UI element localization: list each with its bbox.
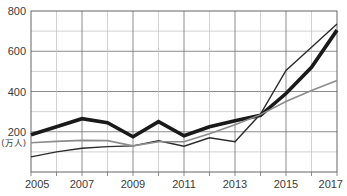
x-tick-label-2005: 2005 (25, 178, 49, 190)
y-axis-unit-label: (万人) (1, 138, 26, 148)
y-tick-label-800: 800 (8, 5, 26, 17)
x-axis-tick-marks (31, 172, 337, 176)
chart-canvas: 200400600800 200520072009201120132015201… (0, 0, 347, 196)
y-tick-label-400: 400 (8, 86, 26, 98)
x-tick-label-2009: 2009 (121, 178, 145, 190)
y-axis-tick-labels: 200400600800 (8, 5, 26, 138)
line-chart: 200400600800 200520072009201120132015201… (0, 0, 347, 196)
x-axis-tick-labels: 2005200720092011201320152017 (25, 178, 343, 190)
x-tick-label-2015: 2015 (274, 178, 298, 190)
y-tick-label-600: 600 (8, 45, 26, 57)
x-tick-label-2017: 2017 (319, 178, 343, 190)
x-tick-label-2011: 2011 (172, 178, 196, 190)
y-tick-label-200: 200 (8, 126, 26, 138)
x-tick-label-2007: 2007 (70, 178, 94, 190)
x-tick-label-2013: 2013 (223, 178, 247, 190)
